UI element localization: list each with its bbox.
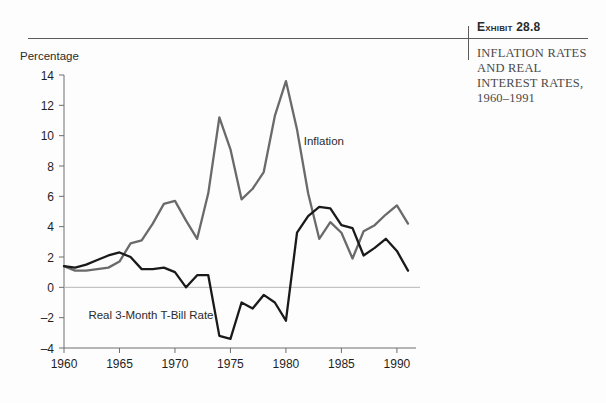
x-tick-label: 1985	[328, 357, 355, 371]
y-tick-label: 0	[47, 281, 54, 295]
x-tick-label: 1960	[51, 357, 78, 371]
y-tick-label: 6	[47, 190, 54, 204]
x-tick-label: 1975	[217, 357, 244, 371]
x-tick-label: 1980	[273, 357, 300, 371]
series-line-inflation	[64, 81, 408, 271]
series-annotation: Real 3-Month T-Bill Rate	[88, 309, 213, 321]
exhibit-title-line-1: INFLATION RATES	[477, 46, 601, 61]
header-divider-vertical	[468, 26, 469, 60]
exhibit-title-line-2: AND REAL	[477, 61, 601, 76]
line-chart: 14121086420–2–4 196019651970197519801985…	[0, 44, 460, 394]
header-divider-horizontal	[28, 38, 588, 39]
y-tick-label: –4	[41, 342, 55, 356]
y-tick-label: 8	[47, 160, 54, 174]
y-tick-label: 4	[47, 220, 54, 234]
chart-series-group	[64, 81, 408, 339]
exhibit-page: Exhibit 28.8 INFLATION RATES AND REAL IN…	[0, 0, 606, 403]
x-tick-label: 1990	[384, 357, 411, 371]
y-tick-label: 10	[41, 129, 55, 143]
y-tick-label: 14	[41, 69, 55, 83]
chart-annotations: InflationReal 3-Month T-Bill Rate	[88, 135, 344, 321]
exhibit-number: Exhibit 28.8	[477, 20, 540, 34]
exhibit-title-line-3: INTEREST RATES,	[477, 76, 601, 91]
x-tick-label: 1970	[162, 357, 189, 371]
x-axis-ticks: 1960196519701975198019851990	[51, 348, 411, 371]
exhibit-title: INFLATION RATES AND REAL INTEREST RATES,…	[477, 46, 601, 106]
y-tick-label: 2	[47, 251, 54, 265]
exhibit-title-years: 1960–1991	[477, 91, 601, 106]
y-tick-label: 12	[41, 99, 55, 113]
y-tick-label: –2	[41, 311, 55, 325]
x-tick-label: 1965	[106, 357, 133, 371]
chart-plot-area: 14121086420–2–4 196019651970197519801985…	[0, 44, 460, 394]
y-axis-title: Percentage	[20, 50, 79, 62]
series-annotation: Inflation	[304, 135, 344, 147]
y-axis-ticks: 14121086420–2–4	[41, 69, 64, 356]
